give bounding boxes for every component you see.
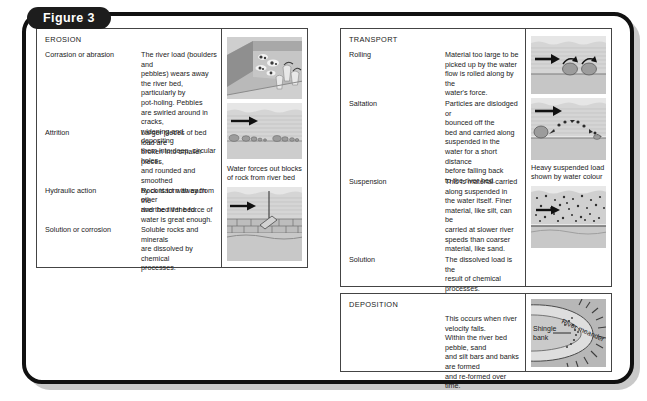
suspension-illustration <box>531 186 606 248</box>
erosion-heading: EROSION <box>45 35 82 44</box>
erosion-term-corrasion: Corrasion or abrasion <box>45 50 141 60</box>
deposition-description: This occurs when river velocity falls. W… <box>445 314 521 391</box>
transport-desc-suspension: This is material carried along suspended… <box>445 177 521 254</box>
transport-term-suspension: Suspension <box>349 177 445 187</box>
deposition-text-column: DEPOSITION This occurs when river veloci… <box>341 294 525 371</box>
saltation-illustration <box>531 98 606 160</box>
figure-number-label: Figure 3 <box>43 11 95 25</box>
erosion-text-column: EROSION Corrasion or abrasion The river … <box>37 29 221 267</box>
erosion-term-solution: Solution or corrosion <box>45 225 141 235</box>
transport-illustration-column: Heavy suspended load shown by water colo… <box>525 29 611 286</box>
deposition-illustration-column: River meander Shingle bank <box>525 294 611 371</box>
transport-desc-saltation: Particles are dislodged or bounced off t… <box>445 99 521 185</box>
erosion-term-hydraulic: Hydraulic action <box>45 186 141 196</box>
figure-number-badge: Figure 3 <box>27 7 111 29</box>
rolling-illustration <box>531 36 606 94</box>
transport-term-rolling: Rolling <box>349 50 445 60</box>
figure-diagram: Figure 3 EROSION Corrasion or abrasion T… <box>0 0 647 401</box>
transport-desc-solution: The dissolved load is the result of chem… <box>445 255 521 293</box>
erosion-panel: EROSION Corrasion or abrasion The river … <box>36 28 308 268</box>
transport-heading: TRANSPORT <box>349 35 398 44</box>
deposition-panel: DEPOSITION This occurs when river veloci… <box>340 293 612 372</box>
attrition-illustration <box>227 103 302 159</box>
transport-term-solution: Solution <box>349 255 445 265</box>
meander-illustration: River meander Shingle bank <box>531 299 606 367</box>
shingle-bank-label-line1: Shingle <box>533 325 556 333</box>
hydraulic-action-illustration <box>227 187 302 261</box>
transport-panel: TRANSPORT Rolling Material too large to … <box>340 28 612 287</box>
erosion-term-attrition: Attrition <box>45 128 141 138</box>
deposition-heading: DEPOSITION <box>349 300 398 309</box>
potholing-illustration <box>227 37 302 99</box>
transport-text-column: TRANSPORT Rolling Material too large to … <box>341 29 525 286</box>
transport-term-saltation: Saltation <box>349 99 445 109</box>
suspension-caption: Heavy suspended load shown by water colo… <box>531 163 608 181</box>
erosion-desc-hydraulic: Rock is torn away from the river bed if … <box>141 186 217 224</box>
shingle-bank-label-line2: bank <box>533 334 549 341</box>
transport-desc-rolling: Material too large to be picked up by th… <box>445 50 521 98</box>
hydraulic-action-caption: Water forces out blocks of rock from riv… <box>227 164 304 182</box>
erosion-illustration-column: Water forces out blocks of rock from riv… <box>221 29 307 267</box>
erosion-desc-solution: Soluble rocks and minerals are dissolved… <box>141 225 217 273</box>
